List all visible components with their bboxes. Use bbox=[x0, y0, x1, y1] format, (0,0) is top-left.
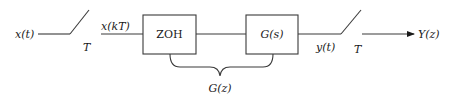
plant-output-label: y(t) bbox=[315, 41, 335, 54]
sampled-signal-label: x(kT) bbox=[101, 20, 130, 33]
output-sampler-period-label: T bbox=[354, 43, 363, 56]
plant-block-label: G(s) bbox=[260, 28, 283, 41]
input-signal-label: x(t) bbox=[15, 28, 34, 41]
sampled-data-block-diagram: x(t) T x(kT) ZOH G(s) y(t) T Y(z) G(z) bbox=[0, 0, 452, 100]
zoh-block: ZOH bbox=[143, 15, 196, 54]
plant-block: G(s) bbox=[246, 15, 298, 54]
zoh-block-label: ZOH bbox=[156, 28, 182, 41]
grouping-brace bbox=[170, 54, 273, 76]
output-sampler-switch bbox=[341, 10, 361, 34]
input-sampler-switch bbox=[70, 10, 89, 34]
grouping-brace-label: G(z) bbox=[208, 82, 231, 95]
output-signal-label: Y(z) bbox=[418, 28, 440, 41]
input-sampler-period-label: T bbox=[83, 41, 92, 54]
